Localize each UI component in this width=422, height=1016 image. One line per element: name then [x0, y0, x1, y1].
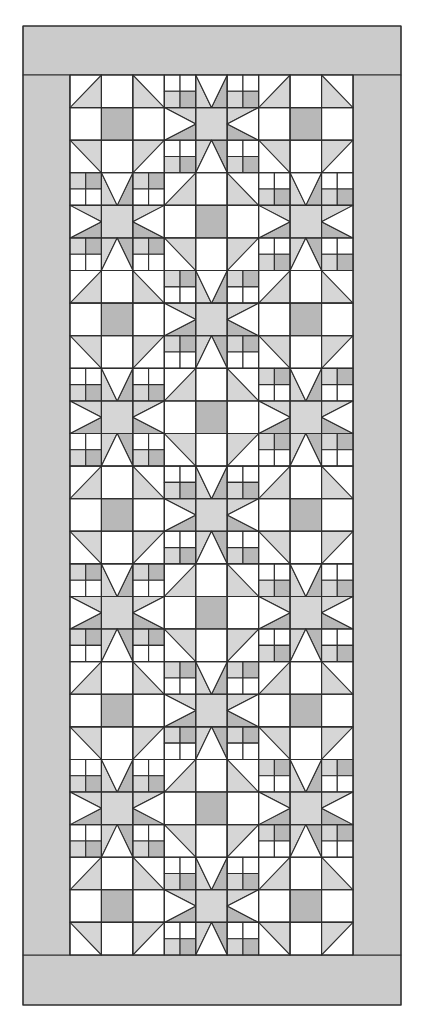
- four-patch-square: [243, 140, 259, 156]
- white-square: [101, 336, 132, 369]
- four-patch-square: [86, 254, 102, 270]
- four-patch-square: [86, 825, 102, 841]
- white-square: [227, 792, 258, 825]
- four-patch-square: [227, 531, 243, 547]
- center-square: [290, 401, 321, 434]
- four-patch-square: [274, 450, 290, 466]
- four-patch-square: [70, 629, 86, 645]
- center-square: [101, 596, 132, 629]
- four-patch-square: [259, 564, 275, 580]
- four-patch-square: [274, 825, 290, 841]
- four-patch-square: [149, 368, 165, 384]
- center-square: [290, 792, 321, 825]
- four-patch-square: [243, 91, 259, 107]
- four-patch-square: [149, 450, 165, 466]
- four-patch-square: [164, 662, 180, 678]
- four-patch-square: [133, 385, 149, 401]
- white-square: [290, 336, 321, 369]
- four-patch-square: [227, 91, 243, 107]
- white-square: [259, 890, 290, 923]
- four-patch-square: [322, 580, 338, 596]
- four-patch-square: [164, 271, 180, 287]
- four-patch-square: [180, 287, 196, 303]
- center-square: [290, 205, 321, 238]
- four-patch-square: [274, 645, 290, 661]
- four-patch-square: [337, 629, 353, 645]
- four-patch-square: [164, 874, 180, 890]
- four-patch-square: [322, 173, 338, 189]
- four-patch-square: [274, 238, 290, 254]
- four-patch-square: [259, 368, 275, 384]
- four-patch-square: [149, 629, 165, 645]
- center-square: [196, 499, 227, 532]
- white-square: [196, 825, 227, 858]
- four-patch-square: [149, 759, 165, 775]
- white-square: [70, 694, 101, 727]
- four-patch-square: [274, 173, 290, 189]
- four-patch-square: [259, 776, 275, 792]
- white-square: [101, 271, 132, 304]
- four-patch-square: [164, 466, 180, 482]
- four-patch-square: [259, 629, 275, 645]
- four-patch-square: [70, 564, 86, 580]
- white-square: [290, 466, 321, 499]
- border-right: [353, 75, 401, 955]
- white-square: [133, 499, 164, 532]
- four-patch-square: [180, 271, 196, 287]
- four-patch-square: [86, 580, 102, 596]
- four-patch-square: [86, 564, 102, 580]
- four-patch-square: [337, 776, 353, 792]
- four-patch-square: [227, 140, 243, 156]
- center-square: [290, 303, 321, 336]
- four-patch-square: [86, 385, 102, 401]
- white-square: [196, 434, 227, 467]
- four-patch-square: [259, 825, 275, 841]
- four-patch-square: [227, 287, 243, 303]
- four-patch-square: [70, 368, 86, 384]
- four-patch-square: [180, 466, 196, 482]
- four-patch-square: [133, 841, 149, 857]
- four-patch-square: [337, 173, 353, 189]
- four-patch-square: [180, 75, 196, 91]
- four-patch-square: [227, 482, 243, 498]
- center-square: [196, 303, 227, 336]
- four-patch-square: [164, 336, 180, 352]
- four-patch-square: [227, 727, 243, 743]
- quilt-figure: [0, 0, 422, 1016]
- white-square: [290, 662, 321, 695]
- four-patch-square: [243, 466, 259, 482]
- white-square: [290, 140, 321, 173]
- four-patch-square: [180, 727, 196, 743]
- white-square: [290, 271, 321, 304]
- white-square: [196, 759, 227, 792]
- four-patch-square: [86, 841, 102, 857]
- four-patch-square: [180, 91, 196, 107]
- white-square: [322, 499, 353, 532]
- quilt-field: [70, 75, 353, 955]
- four-patch-square: [133, 368, 149, 384]
- center-square: [290, 890, 321, 923]
- four-patch-square: [133, 254, 149, 270]
- four-patch-square: [243, 336, 259, 352]
- four-patch-square: [180, 662, 196, 678]
- center-square: [196, 694, 227, 727]
- four-patch-square: [164, 727, 180, 743]
- white-square: [101, 857, 132, 890]
- center-square: [101, 694, 132, 727]
- four-patch-square: [86, 368, 102, 384]
- four-patch-square: [180, 140, 196, 156]
- four-patch-square: [322, 759, 338, 775]
- four-patch-square: [337, 368, 353, 384]
- four-patch-square: [227, 857, 243, 873]
- four-patch-square: [149, 564, 165, 580]
- four-patch-square: [274, 759, 290, 775]
- four-patch-square: [243, 531, 259, 547]
- four-patch-square: [337, 434, 353, 450]
- four-patch-square: [133, 629, 149, 645]
- four-patch-square: [259, 759, 275, 775]
- four-patch-square: [274, 254, 290, 270]
- four-patch-square: [274, 776, 290, 792]
- four-patch-square: [243, 743, 259, 759]
- four-patch-square: [259, 841, 275, 857]
- four-patch-square: [149, 173, 165, 189]
